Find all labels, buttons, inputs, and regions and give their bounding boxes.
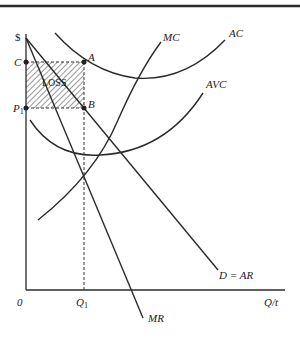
p1-letter: P	[13, 102, 20, 114]
ac-label: AC	[229, 28, 243, 39]
mc-label: MC	[163, 32, 180, 43]
point-b	[82, 106, 87, 111]
x-axis-label: Q/t	[264, 297, 278, 308]
point-p1	[24, 106, 29, 111]
point-a-label: A	[88, 52, 95, 63]
demand-label: D = AR	[219, 270, 253, 281]
point-b-label: B	[88, 99, 95, 110]
origin-label: 0	[17, 297, 23, 308]
q1-subscript: 1	[84, 301, 88, 310]
mr-label: MR	[148, 313, 164, 324]
demand-curve	[26, 38, 218, 270]
point-c	[24, 60, 29, 65]
y-axis-label: $	[15, 32, 21, 43]
q1-label: Q1	[76, 297, 88, 310]
p1-subscript: 1	[20, 107, 24, 116]
diagram-canvas	[0, 0, 300, 341]
avc-label: AVC	[206, 79, 226, 90]
loss-label: LOSS	[42, 78, 66, 88]
point-a	[82, 60, 87, 65]
p1-label: P1	[13, 103, 24, 116]
q1-letter: Q	[76, 296, 84, 308]
c-label: C	[14, 57, 21, 68]
